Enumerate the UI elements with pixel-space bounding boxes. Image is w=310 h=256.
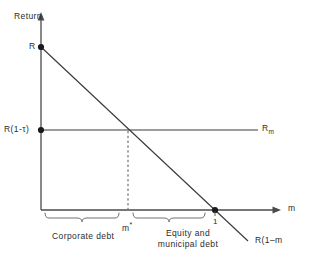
brace-corporate-debt xyxy=(45,213,119,222)
label-equity-municipal-debt-line2: municipal debt xyxy=(144,239,232,250)
point-r xyxy=(38,44,44,50)
point-r-after-tax xyxy=(38,127,44,133)
label-equity-municipal-debt: Equity and municipal debt xyxy=(144,228,232,250)
label-equity-municipal-debt-line1: Equity and xyxy=(144,228,232,239)
x-axis xyxy=(41,207,281,214)
figure-canvas: Return m R R(1-τ) Rm R(1–m m* 1 Corporat… xyxy=(0,0,310,256)
y-axis xyxy=(38,12,45,210)
brace-equity-municipal-debt xyxy=(133,213,205,222)
label-rm: Rm xyxy=(262,123,274,137)
label-r-one-minus-m: R(1–m xyxy=(255,235,283,246)
label-m-star: m* xyxy=(122,219,133,234)
label-corporate-debt: Corporate debt xyxy=(52,231,114,242)
label-rm-subscript: m xyxy=(269,128,274,135)
label-unit-tick: 1 xyxy=(213,216,218,227)
label-m-star-superscript: * xyxy=(129,221,132,228)
y-axis-label: Return xyxy=(14,11,42,22)
label-r-after-tax: R(1-τ) xyxy=(4,124,29,135)
x-axis-label: m xyxy=(288,203,295,214)
label-r-intercept: R xyxy=(29,41,36,52)
